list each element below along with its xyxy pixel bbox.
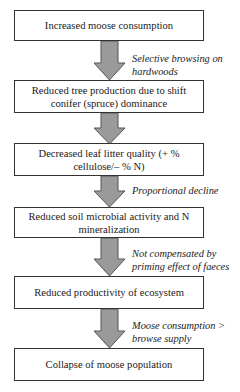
node-reduced-tree-production: Reduced tree production due to shift con… [14,80,204,113]
down-arrow-icon [93,176,126,207]
edge-label-not-compensated: Not compensated by priming effect of fae… [132,247,240,273]
node-text: Increased moose consumption [45,19,173,32]
node-text: Reduced soil microbial activity and N mi… [21,210,197,236]
arrow-4-to-5 [93,238,126,276]
down-arrow-icon [93,309,126,348]
arrow-5-to-6 [93,309,126,348]
node-collapse-of-moose-population: Collapse of moose population [14,348,204,381]
edge-label-proportional-decline: Proportional decline [132,184,218,197]
node-reduced-productivity: Reduced productivity of ecosystem [14,276,204,309]
node-text: Collapse of moose population [46,358,173,371]
node-text: Reduced tree production due to shift con… [21,84,197,110]
node-text: Reduced productivity of ecosystem [34,286,184,299]
edge-label-moose-consumption-supply: Moose consumption > browse supply [132,319,232,345]
node-increased-moose-consumption: Increased moose consumption [14,10,204,41]
edge-label-text: Moose consumption > browse supply [132,319,232,345]
down-arrow-icon [93,238,126,276]
down-arrow-icon [93,113,126,144]
node-text: Decreased leaf litter quality (+ % cellu… [21,147,197,173]
arrow-3-to-4 [93,176,126,207]
down-arrow-icon [93,41,126,80]
arrow-2-to-3 [93,113,126,144]
node-decreased-leaf-litter-quality: Decreased leaf litter quality (+ % cellu… [14,143,204,176]
edge-label-selective-browsing: Selective browsing on hardwoods [132,52,237,78]
arrow-1-to-2 [93,41,126,80]
node-reduced-soil-microbial-activity: Reduced soil microbial activity and N mi… [14,207,204,238]
edge-label-text: Selective browsing on hardwoods [132,52,237,78]
edge-label-text: Not compensated by priming effect of fae… [132,247,240,273]
edge-label-text: Proportional decline [132,185,218,196]
